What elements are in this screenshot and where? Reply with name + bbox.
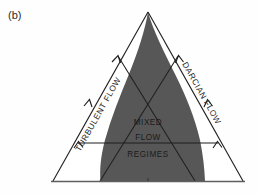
left-edge-arrowhead-lower-icon bbox=[84, 100, 92, 108]
figure-container: (b) bbox=[0, 0, 259, 194]
left-edge-arrowhead-upper-icon bbox=[112, 56, 121, 64]
ternary-flow-regime-diagram: TURBULENT FLOW DARCIAN FLOW MIXED FLOW R… bbox=[0, 0, 259, 194]
right-edge-arrowhead-upper-icon bbox=[176, 56, 184, 64]
center-label-regimes: REGIMES bbox=[127, 150, 168, 159]
center-label-flow: FLOW bbox=[135, 133, 161, 142]
center-label-mixed: MIXED bbox=[134, 118, 162, 127]
